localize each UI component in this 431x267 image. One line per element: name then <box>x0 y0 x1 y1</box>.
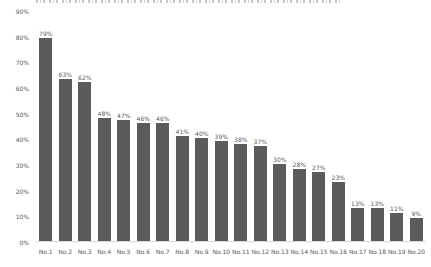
bar-column: 23% <box>329 174 349 241</box>
bar-column: 46% <box>153 115 173 241</box>
y-axis-tick-label: 90% <box>16 8 29 15</box>
bar <box>117 120 130 241</box>
bar-column: 39% <box>212 133 232 241</box>
y-axis: 0%10%20%30%40%50%60%70%80%90% <box>0 11 33 242</box>
bar-column: 37% <box>251 138 271 241</box>
bar <box>234 144 247 242</box>
x-axis-tick-label: No.4 <box>95 248 115 256</box>
y-axis-tick-label: 80% <box>16 33 29 40</box>
bar-column: 40% <box>192 130 212 241</box>
x-axis-tick-label: No.14 <box>290 248 310 256</box>
bar-value-label: 13% <box>371 200 384 207</box>
bar-value-label: 37% <box>254 138 267 145</box>
bar <box>332 182 345 241</box>
x-axis-tick-label: No.7 <box>153 248 173 256</box>
bar-column: 13% <box>368 200 388 241</box>
bar <box>98 118 111 241</box>
bar-chart: 0%10%20%30%40%50%60%70%80%90% 79%63%62%4… <box>0 0 431 267</box>
y-axis-tick-label: 0% <box>19 239 29 246</box>
y-axis-tick-label: 20% <box>16 187 29 194</box>
bar-column: 63% <box>56 71 76 241</box>
bar-column: 46% <box>134 115 154 241</box>
bar-column: 47% <box>114 112 134 241</box>
x-axis-tick-label: No.18 <box>368 248 388 256</box>
x-axis-labels: No.1No.2No.3No.4No.5No.6No.7No.8No.9No.1… <box>36 248 426 256</box>
x-axis-tick-label: No.9 <box>192 248 212 256</box>
bar-value-label: 30% <box>273 156 286 163</box>
x-axis-tick-label: No.19 <box>387 248 407 256</box>
bar <box>59 79 72 241</box>
x-axis-tick-label: No.8 <box>173 248 193 256</box>
bar-value-label: 13% <box>351 200 364 207</box>
bar-column: 41% <box>173 128 193 241</box>
bar-value-label: 79% <box>39 30 52 37</box>
bar-value-label: 46% <box>137 115 150 122</box>
x-axis-tick-label: No.5 <box>114 248 134 256</box>
bar-value-label: 28% <box>293 161 306 168</box>
x-axis-tick-label: No.17 <box>348 248 368 256</box>
bar <box>390 213 403 241</box>
bar <box>351 208 364 241</box>
x-axis-tick-label: No.1 <box>36 248 56 256</box>
plot-area: 79%63%62%48%47%46%46%41%40%39%38%37%30%2… <box>36 10 426 242</box>
y-axis-tick-label: 50% <box>16 110 29 117</box>
bar-value-label: 47% <box>117 112 130 119</box>
bar <box>273 164 286 241</box>
bar <box>137 123 150 241</box>
bar <box>78 82 91 241</box>
bar-column: 11% <box>387 205 407 241</box>
x-axis-tick-label: No.11 <box>231 248 251 256</box>
y-axis-tick-label: 10% <box>16 213 29 220</box>
bar-column: 28% <box>290 161 310 241</box>
x-axis-tick-label: No.2 <box>56 248 76 256</box>
bar-value-label: 39% <box>215 133 228 140</box>
bar-column: 79% <box>36 30 56 241</box>
x-axis-tick-label: No.6 <box>134 248 154 256</box>
clipped-chart-title <box>36 0 341 3</box>
y-axis-tick-label: 70% <box>16 59 29 66</box>
x-axis-tick-label: No.3 <box>75 248 95 256</box>
bar <box>39 38 52 241</box>
bar <box>195 138 208 241</box>
y-axis-tick-label: 40% <box>16 136 29 143</box>
bar <box>293 169 306 241</box>
bar-value-label: 23% <box>332 174 345 181</box>
x-axis-tick-label: No.16 <box>329 248 349 256</box>
bar-value-label: 62% <box>78 74 91 81</box>
bar <box>215 141 228 241</box>
bar-column: 48% <box>95 110 115 241</box>
bar-value-label: 41% <box>176 128 189 135</box>
x-axis-tick-label: No.10 <box>212 248 232 256</box>
bar <box>312 172 325 241</box>
bar-column: 62% <box>75 74 95 241</box>
y-axis-tick-label: 60% <box>16 85 29 92</box>
bar-value-label: 11% <box>390 205 403 212</box>
bar <box>371 208 384 241</box>
bar-column: 38% <box>231 136 251 242</box>
x-axis-tick-label: No.12 <box>251 248 271 256</box>
bar-column: 27% <box>309 164 329 241</box>
bar-value-label: 40% <box>195 130 208 137</box>
bar-column: 13% <box>348 200 368 241</box>
x-axis-tick-label: No.20 <box>407 248 427 256</box>
bar-value-label: 9% <box>411 210 421 217</box>
x-axis-tick-label: No.15 <box>309 248 329 256</box>
bar-value-label: 38% <box>234 136 247 143</box>
bar-column: 9% <box>407 210 427 241</box>
bar <box>176 136 189 241</box>
bar <box>254 146 267 241</box>
y-axis-tick-label: 30% <box>16 162 29 169</box>
bar-value-label: 63% <box>59 71 72 78</box>
bar <box>410 218 423 241</box>
bar-value-label: 46% <box>156 115 169 122</box>
bar-value-label: 27% <box>312 164 325 171</box>
bar <box>156 123 169 241</box>
bar-column: 30% <box>270 156 290 241</box>
x-axis-tick-label: No.13 <box>270 248 290 256</box>
bar-value-label: 48% <box>98 110 111 117</box>
